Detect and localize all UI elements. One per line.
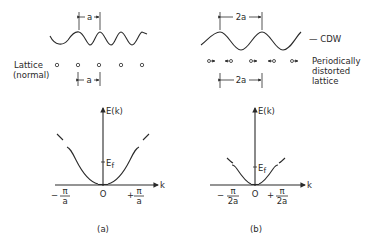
origin-label: O	[100, 189, 107, 199]
distorted-lattice-label: lattice	[312, 76, 339, 86]
spacing-bracket-2a-top: 2a	[220, 12, 262, 30]
k-axis-label: k	[160, 180, 165, 190]
spacing-label: 2a	[236, 75, 247, 85]
svg-text:π: π	[230, 186, 235, 196]
svg-text:a: a	[62, 196, 67, 206]
k-axis-label: k	[307, 180, 312, 190]
cdw-diagram: a Lattice (normal) a 2a	[0, 0, 370, 246]
svg-text:+: +	[267, 190, 274, 200]
lattice-label: Lattice	[14, 60, 43, 70]
svg-text:−: −	[51, 190, 58, 200]
origin-label: O	[252, 189, 259, 199]
tick-minus-pi-over-a: − π a	[51, 186, 70, 206]
spacing-bracket-a-top: a	[79, 12, 100, 30]
tick-minus-pi-over-2a: − π 2a	[217, 186, 239, 206]
svg-text:2a: 2a	[277, 196, 288, 206]
spacing-label: a	[86, 75, 91, 85]
cdw-label: — CDW	[309, 34, 342, 44]
distorted-lattice-atoms	[208, 60, 299, 63]
panel-a-lattice: a Lattice (normal) a	[13, 12, 147, 86]
spacing-label: a	[87, 12, 92, 22]
distorted-lattice-label: Periodically	[312, 56, 361, 66]
panel-a-band-plot: E(k) k Ef O − π a + π a (a)	[51, 106, 165, 234]
energy-axis-label: E(k)	[106, 106, 123, 116]
tick-plus-pi-over-a: + π a	[127, 186, 144, 206]
svg-text:π: π	[62, 186, 67, 196]
fermi-label: Ef	[106, 158, 114, 170]
lattice-label: (normal)	[13, 70, 49, 80]
lattice-atoms	[55, 63, 143, 66]
panel-b-lattice: 2a — CDW Periodically distorted lattice …	[201, 12, 361, 88]
tick-plus-pi-over-2a: + π 2a	[267, 186, 288, 206]
fermi-label: Ef	[258, 163, 266, 175]
caption-a: (a)	[97, 224, 109, 234]
electron-wave	[50, 32, 147, 45]
svg-text:+: +	[127, 190, 134, 200]
svg-text:π: π	[279, 186, 284, 196]
distorted-lattice-label: distorted	[312, 66, 350, 76]
spacing-label: 2a	[236, 12, 247, 22]
cdw-wave	[201, 32, 301, 50]
spacing-bracket-2a-bottom: 2a	[220, 73, 262, 88]
caption-b: (b)	[250, 224, 262, 234]
spacing-bracket-a-bottom: a	[78, 72, 100, 86]
energy-axis-label: E(k)	[258, 106, 275, 116]
panel-b-band-plot: E(k) k Ef O − π 2a + π 2a (b)	[210, 106, 312, 234]
svg-text:2a: 2a	[228, 196, 239, 206]
svg-text:−: −	[217, 190, 224, 200]
svg-text:π: π	[136, 186, 141, 196]
svg-text:a: a	[136, 196, 141, 206]
upper-band	[227, 158, 285, 163]
